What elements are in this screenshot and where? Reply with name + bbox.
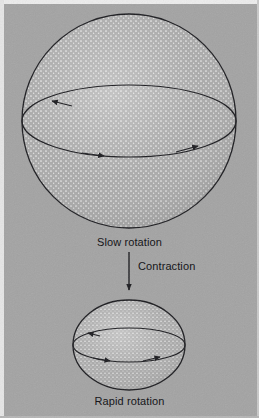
label-slow-rotation: Slow rotation — [0, 236, 259, 248]
diagram-canvas — [0, 0, 259, 418]
rotational-contraction-figure: Slow rotation Contraction Rapid rotation — [0, 0, 259, 418]
label-contraction: Contraction — [138, 260, 195, 272]
label-rapid-rotation: Rapid rotation — [0, 395, 259, 407]
paper-grain-overlay — [0, 0, 259, 418]
